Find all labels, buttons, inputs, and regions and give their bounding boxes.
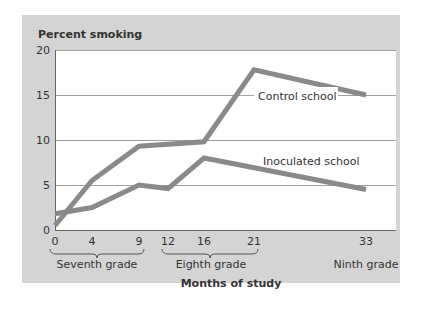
y-tick-label: 5 bbox=[43, 179, 50, 192]
y-tick-label: 0 bbox=[43, 224, 50, 237]
chart: Control school Inoculated school Percent… bbox=[0, 0, 447, 314]
inoculated-school-label: Inoculated school bbox=[263, 155, 360, 168]
seventh-grade-label: Seventh grade bbox=[57, 258, 138, 271]
x-tick-label: 16 bbox=[197, 235, 211, 248]
x-tick-label: 12 bbox=[161, 235, 175, 248]
y-tick-labels: 20 15 10 5 0 bbox=[36, 44, 50, 237]
control-school-label: Control school bbox=[258, 90, 337, 103]
ninth-grade-label: Ninth grade bbox=[333, 258, 398, 271]
x-tick-label: 33 bbox=[359, 235, 373, 248]
x-tick-labels: 0 4 9 12 16 21 33 bbox=[52, 235, 374, 248]
x-tick-label: 0 bbox=[52, 235, 59, 248]
x-tick-label: 4 bbox=[89, 235, 96, 248]
x-tick-label: 21 bbox=[247, 235, 261, 248]
y-tick-label: 15 bbox=[36, 89, 50, 102]
y-tick-label: 20 bbox=[36, 44, 50, 57]
y-axis-title: Percent smoking bbox=[38, 28, 142, 41]
x-tick-label: 9 bbox=[136, 235, 143, 248]
grade-braces bbox=[50, 249, 258, 258]
y-tick-label: 10 bbox=[36, 134, 50, 147]
eighth-grade-label: Eighth grade bbox=[176, 258, 247, 271]
x-axis-title: Months of study bbox=[181, 277, 282, 290]
